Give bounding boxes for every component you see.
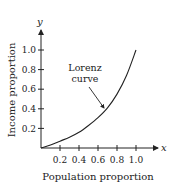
- y-tick-label: 0.8: [22, 65, 37, 75]
- y-tick-label: 0.2: [22, 124, 36, 134]
- annotation-line1: Lorenz: [68, 62, 101, 73]
- lorenz-chart: y x 0.2 0.4 0.6 0.8 1.0 0.2 0.4 0.6 0.8 …: [0, 0, 177, 192]
- x-tick-label: 0.4: [72, 155, 87, 165]
- x-tick-label: 1.0: [129, 155, 144, 165]
- x-tick-label: 0.2: [53, 155, 67, 165]
- x-axis-title: Population proportion: [42, 171, 154, 182]
- x-tick-label: 0.6: [91, 155, 106, 165]
- x-tick-label: 0.8: [110, 155, 125, 165]
- x-axis-variable: x: [161, 142, 167, 153]
- y-tick-label: 0.6: [22, 84, 37, 94]
- annotation-line2: curve: [72, 73, 99, 84]
- y-axis-variable: y: [36, 16, 43, 27]
- y-axis-title: Income proportion: [6, 42, 17, 137]
- annotation-arrow: [89, 87, 104, 108]
- y-tick-label: 1.0: [22, 45, 37, 55]
- y-tick-label: 0.4: [22, 104, 37, 114]
